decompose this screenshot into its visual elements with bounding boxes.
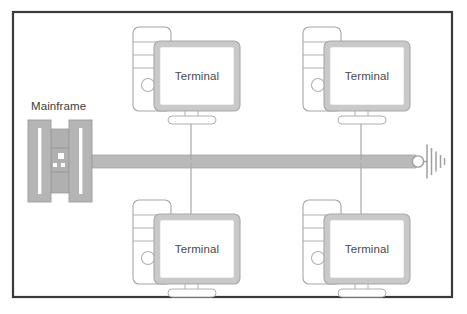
mainframe-indicator-1: [58, 153, 64, 159]
mainframe-mid-section: [51, 129, 69, 193]
network-topology-diagram: Mainframe Terminal: [0, 0, 467, 314]
diagram-canvas: Mainframe Terminal: [0, 0, 467, 314]
monitor-stand-base: [338, 116, 386, 124]
terminal-label: Terminal: [345, 243, 389, 255]
terminal-top-right[interactable]: Terminal: [303, 27, 410, 124]
terminal-bottom-left[interactable]: Terminal: [133, 200, 240, 297]
bus-backbone: [92, 155, 416, 168]
ground-symbol-icon: [427, 145, 445, 179]
terminal-top-left[interactable]: Terminal: [133, 27, 240, 124]
terminal-label: Terminal: [175, 70, 219, 82]
monitor: Terminal: [154, 41, 240, 124]
mainframe-indicator-2: [53, 163, 57, 167]
monitor-stand-base: [338, 289, 386, 297]
monitor-stand-base: [168, 116, 216, 124]
mainframe-indicator-3: [61, 163, 65, 167]
mainframe-right-slot: [79, 128, 82, 194]
mainframe-left-slot: [38, 128, 41, 194]
mainframe-node[interactable]: Mainframe: [28, 100, 92, 202]
monitor: Terminal: [154, 214, 240, 297]
terminal-label: Terminal: [175, 243, 219, 255]
monitor-stand-base: [168, 289, 216, 297]
terminator-connector-icon: [412, 156, 423, 167]
terminal-label: Terminal: [345, 70, 389, 82]
bus-terminator: [412, 145, 444, 179]
terminal-bottom-right[interactable]: Terminal: [303, 200, 410, 297]
mainframe-label: Mainframe: [31, 100, 86, 112]
monitor: Terminal: [324, 214, 410, 297]
monitor: Terminal: [324, 41, 410, 124]
bus-bar: [92, 155, 416, 168]
